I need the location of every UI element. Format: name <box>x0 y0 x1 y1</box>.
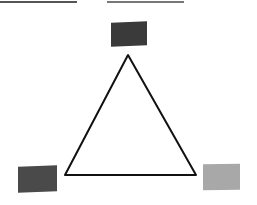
triangle <box>0 0 257 205</box>
